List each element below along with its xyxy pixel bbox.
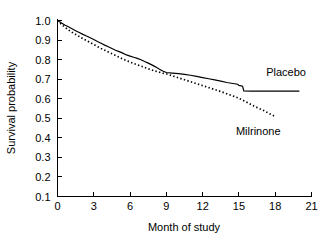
y-tick-label-0.1: 0.1 <box>35 191 50 203</box>
x-tick-label-15: 15 <box>233 200 245 212</box>
y-tick-label-0.7: 0.7 <box>35 73 50 85</box>
x-tick-label-18: 18 <box>269 200 281 212</box>
y-tick-label-0.5: 0.5 <box>35 112 50 124</box>
y-tick-label-1.0: 1.0 <box>35 15 50 27</box>
curve-placebo <box>58 21 300 92</box>
y-tick-label-0.9: 0.9 <box>35 34 50 46</box>
y-tick-label-0.4: 0.4 <box>35 132 50 144</box>
x-tick-label-9: 9 <box>163 200 169 212</box>
x-tick-label-12: 12 <box>197 200 209 212</box>
x-tick-label-0: 0 <box>54 200 60 212</box>
series-labels: PlaceboMilrinone <box>236 66 306 137</box>
curve-milrinone <box>58 21 275 116</box>
x-tick-label-3: 3 <box>91 200 97 212</box>
x-tick-labels: 036912151821 <box>54 200 317 212</box>
y-tick-label-0.3: 0.3 <box>35 151 50 163</box>
x-tick-label-21: 21 <box>305 200 317 212</box>
x-tick-label-6: 6 <box>127 200 133 212</box>
series-label-placebo: Placebo <box>266 66 306 78</box>
y-tick-label-0.2: 0.2 <box>35 171 50 183</box>
series-label-milrinone: Milrinone <box>236 125 281 137</box>
data-series <box>58 21 300 116</box>
axes <box>58 19 312 197</box>
survival-curve-figure: 036912151821 1.00.90.80.70.60.50.40.30.2… <box>0 0 329 243</box>
chart-canvas: 036912151821 1.00.90.80.70.60.50.40.30.2… <box>0 0 329 243</box>
x-axis-title: Month of study <box>148 221 221 233</box>
y-tick-label-0.8: 0.8 <box>35 54 50 66</box>
y-axis-title: Survival probability <box>5 61 17 154</box>
tick-marks <box>58 21 312 197</box>
y-tick-label-0.6: 0.6 <box>35 93 50 105</box>
y-tick-labels: 1.00.90.80.70.60.50.40.30.20.1 <box>35 15 50 203</box>
